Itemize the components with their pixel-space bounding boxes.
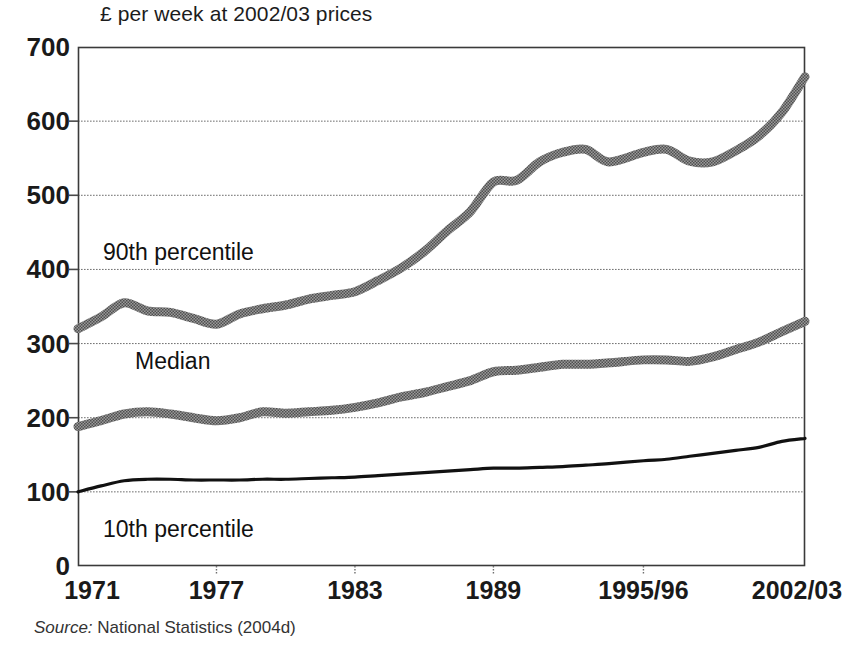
y-tick-label: 200 xyxy=(8,405,70,431)
x-tick-label: 1995/96 xyxy=(598,578,688,603)
gridline-horizontal xyxy=(78,195,805,196)
gridline-horizontal xyxy=(78,269,805,270)
source-note: Source: National Statistics (2004d) xyxy=(34,618,296,638)
y-tick-label: 400 xyxy=(8,256,70,282)
series-label-90th-percentile: 90th percentile xyxy=(103,241,254,264)
y-tick-label: 700 xyxy=(8,34,70,60)
series-line-90th-percentile xyxy=(78,77,805,329)
source-text: National Statistics (2004d) xyxy=(93,618,296,637)
series-label-median: Median xyxy=(135,350,210,373)
series-line-10th-percentile xyxy=(78,438,805,491)
plot-frame xyxy=(79,48,805,566)
y-tick-label: 0 xyxy=(8,553,70,579)
y-tick-label: 100 xyxy=(8,479,70,505)
x-tick-label: 1977 xyxy=(189,578,245,603)
x-tick-label: 1983 xyxy=(327,578,383,603)
series-label-10th-percentile: 10th percentile xyxy=(103,518,254,541)
gridline-horizontal xyxy=(78,121,805,122)
gridline-horizontal xyxy=(78,343,805,344)
chart-plot-area xyxy=(0,0,859,645)
chart-figure: £ per week at 2002/03 prices 01002003004… xyxy=(0,0,859,645)
source-label: Source: xyxy=(34,618,93,637)
x-tick-label: 1989 xyxy=(466,578,522,603)
gridline-horizontal xyxy=(78,491,805,492)
x-tick-label: 2002/03 xyxy=(752,578,842,603)
x-tick-label: 1971 xyxy=(64,578,120,603)
y-tick-label: 600 xyxy=(8,108,70,134)
y-tick-label: 500 xyxy=(8,182,70,208)
y-tick-label: 300 xyxy=(8,331,70,357)
